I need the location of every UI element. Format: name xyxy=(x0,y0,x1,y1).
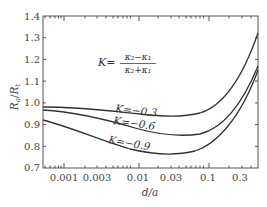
x-tick-labels: 0.001 0.003 0.01 0.03 0.1 0.3 xyxy=(50,172,248,183)
svg-text:0.001: 0.001 xyxy=(50,172,79,183)
chart: 0.7 0.8 0.9 1.0 1.1 1.2 1.3 1.4 xyxy=(0,0,267,207)
svg-text:K=: K= xyxy=(97,56,115,69)
svg-text:Ra/Rt: Ra/Rt xyxy=(8,84,22,112)
plot-frame xyxy=(43,16,258,168)
svg-text:0.7: 0.7 xyxy=(24,162,40,173)
svg-text:0.8: 0.8 xyxy=(24,141,40,152)
svg-text:0.01: 0.01 xyxy=(127,172,149,183)
svg-text:1.4: 1.4 xyxy=(24,11,40,22)
svg-text:0.003: 0.003 xyxy=(83,172,112,183)
svg-text:0.03: 0.03 xyxy=(160,172,182,183)
svg-text:0.9: 0.9 xyxy=(24,119,40,130)
svg-text:1.0: 1.0 xyxy=(24,97,40,108)
svg-text:0.3: 0.3 xyxy=(232,172,248,183)
formula-annotation: K= κ₂−κ₁ κ₂+κ₁ xyxy=(97,52,156,75)
svg-text:1.1: 1.1 xyxy=(24,76,40,87)
svg-text:1.3: 1.3 xyxy=(24,32,40,43)
curve-label-k-0.9: K=−0.9 xyxy=(107,133,152,152)
y-axis-label: Ra/Rt xyxy=(8,84,22,112)
svg-text:0.1: 0.1 xyxy=(200,172,216,183)
svg-text:1.2: 1.2 xyxy=(24,54,40,65)
x-axis-label: d/a xyxy=(142,186,159,198)
y-tick-labels: 0.7 0.8 0.9 1.0 1.1 1.2 1.3 1.4 xyxy=(24,11,40,174)
svg-text:κ₂−κ₁: κ₂−κ₁ xyxy=(124,52,152,62)
svg-text:κ₂+κ₁: κ₂+κ₁ xyxy=(124,65,152,75)
